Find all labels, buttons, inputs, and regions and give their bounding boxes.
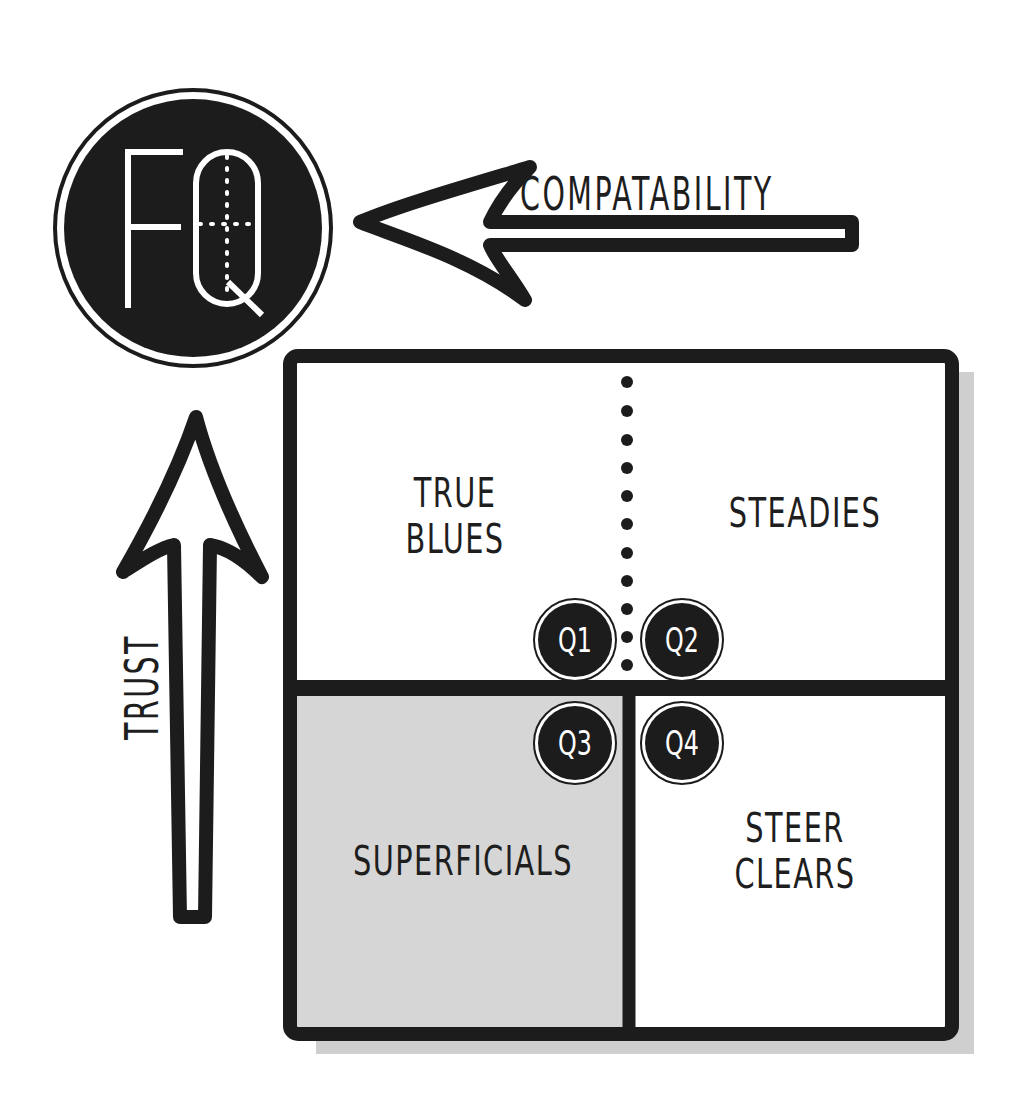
quadrant-q3-label-line1: SUPERFICIALS (344, 838, 582, 884)
quadrant-q1-label-line1: TRUE (365, 470, 545, 516)
quadrant-q4-label-line1: STEER (698, 805, 892, 851)
quadrant-q4-label-line2: CLEARS (698, 851, 892, 897)
badge-q2-text: Q2 (661, 623, 703, 657)
badge-q4-text: Q4 (661, 726, 703, 760)
quadrant-q4-label: STEER CLEARS (698, 805, 892, 897)
y-axis-label: TRUST (115, 631, 169, 743)
quadrant-q1-label-line2: BLUES (365, 516, 545, 562)
x-axis-label: COMPATABILITY (520, 167, 718, 221)
quadrant-q3-label: SUPERFICIALS (344, 838, 582, 884)
badge-q1-text: Q1 (554, 623, 596, 657)
quadrant-q1-label: TRUE BLUES (365, 470, 545, 562)
badge-q3-text: Q3 (554, 726, 596, 760)
quadrant-q2-label: STEADIES (708, 490, 902, 536)
quadrant-q2-label-line1: STEADIES (708, 490, 902, 536)
fq-logo-icon (55, 90, 331, 366)
